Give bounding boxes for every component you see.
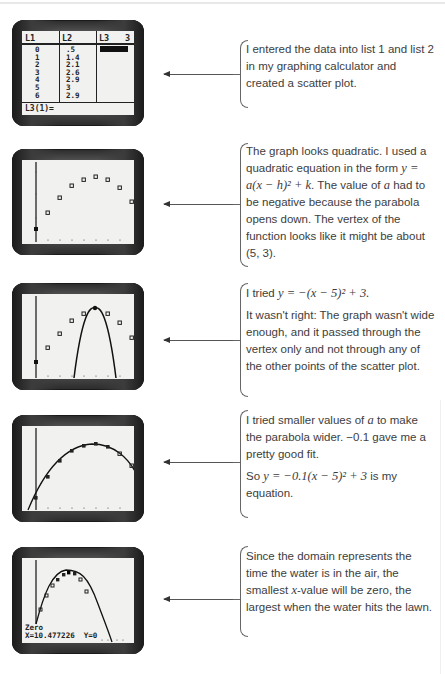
column-header-l1: L1 bbox=[25, 33, 35, 43]
note-text-part: So bbox=[246, 470, 263, 482]
calculator-screen-zero-trace: Zero X=10.477226 Y=0 bbox=[12, 547, 144, 654]
note-text: So y = −0.1(x − 5)² + 3 is my equation. bbox=[246, 468, 436, 502]
note-text-part: I tried smaller values of bbox=[246, 414, 367, 426]
lcd-screen: Zero X=10.477226 Y=0 bbox=[22, 558, 134, 643]
list-entry-line: L3(1)= bbox=[25, 104, 54, 113]
bracket-tick bbox=[233, 204, 240, 205]
arrow-left bbox=[164, 340, 234, 341]
note-step-1: I entered the data into list 1 and list … bbox=[246, 41, 436, 92]
note-text: I tried smaller values of a to make the … bbox=[246, 412, 436, 463]
footer-divider bbox=[22, 102, 134, 103]
calculator-screen-list-editor: L1 L2 L3 3 0 1 2 3 4 5 6 .5 1.4 2.1 2. bbox=[12, 20, 144, 126]
calculator-screen-fit-parabola bbox=[12, 415, 144, 522]
note-text: It wasn't right: The graph wasn't wide e… bbox=[246, 307, 436, 375]
narrow-parabola-graph bbox=[22, 294, 134, 379]
note-text: I tried y = −(x − 5)² + 3. bbox=[246, 285, 436, 302]
scatter-plot-graph bbox=[22, 160, 134, 244]
note-step-3: I tried y = −(x − 5)² + 3. It wasn't rig… bbox=[246, 285, 436, 375]
bracket-tick bbox=[233, 74, 240, 75]
note-text: Since the domain represents the time the… bbox=[246, 548, 436, 616]
note-text-part: I tried bbox=[246, 287, 278, 299]
calculator-screen-scatter-plot bbox=[12, 149, 144, 255]
column-divider bbox=[96, 31, 97, 103]
column-header-l3: L3 bbox=[99, 33, 109, 43]
lcd-screen bbox=[22, 294, 134, 379]
arrow-left bbox=[164, 599, 234, 600]
zero-coordinates: X=10.477226 Y=0 bbox=[25, 631, 97, 640]
note-step-4: I tried smaller values of a to make the … bbox=[246, 412, 436, 502]
calculator-screen-narrow-parabola bbox=[12, 283, 144, 390]
list-l2-values: .5 1.4 2.1 2.6 2.9 3 2.9 bbox=[66, 46, 80, 99]
l1-value: 6 bbox=[35, 92, 40, 100]
note-step-2: The graph looks quadratic. I used a quad… bbox=[246, 143, 436, 262]
equation: y = −(x − 5)² + 3. bbox=[278, 286, 369, 300]
note-text-part: . The value of bbox=[311, 179, 384, 191]
right-rule bbox=[440, 400, 441, 674]
note-text: I entered the data into list 1 and list … bbox=[246, 41, 436, 92]
lcd-screen bbox=[22, 426, 134, 511]
top-rule bbox=[0, 2, 445, 4]
lcd-screen: L1 L2 L3 3 0 1 2 3 4 5 6 .5 1.4 2.1 2. bbox=[22, 31, 134, 115]
bracket-tick bbox=[233, 462, 240, 463]
column-divider bbox=[59, 31, 60, 103]
arrow-left bbox=[164, 204, 234, 205]
arrow-left bbox=[164, 74, 234, 75]
lcd-screen bbox=[22, 160, 134, 244]
bracket-tick bbox=[233, 340, 240, 341]
note-text: The graph looks quadratic. I used a quad… bbox=[246, 143, 436, 262]
list-l1-values: 0 1 2 3 4 5 6 bbox=[35, 46, 40, 99]
cursor-block bbox=[100, 46, 128, 52]
zero-readout: Zero X=10.477226 Y=0 bbox=[25, 624, 97, 640]
note-step-5: Since the domain represents the time the… bbox=[246, 548, 436, 616]
note-text-part: The graph looks quadratic. I used a quad… bbox=[246, 145, 426, 174]
equation: y = −0.1(x − 5)² + 3 bbox=[263, 469, 367, 483]
bracket-tick bbox=[233, 599, 240, 600]
column-index: 3 bbox=[125, 33, 130, 43]
fit-parabola-graph bbox=[22, 426, 134, 511]
column-header-l2: L2 bbox=[62, 33, 72, 43]
list-editor-table: L1 L2 L3 3 0 1 2 3 4 5 6 .5 1.4 2.1 2. bbox=[22, 31, 134, 115]
arrow-left bbox=[164, 462, 234, 463]
l2-value: 2.9 bbox=[66, 92, 80, 100]
